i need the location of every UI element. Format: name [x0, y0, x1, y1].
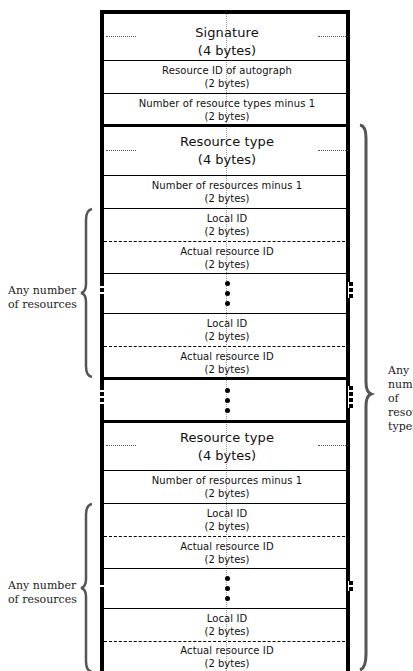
- field-label: Number of resource types minus 1: [139, 97, 315, 110]
- vertical-ellipsis-icon: [225, 388, 230, 413]
- resource-map-diagram: Signature (4 bytes) Resource ID of autog…: [0, 0, 413, 671]
- any-number-of-resource-types-label: Any number of resource types: [388, 364, 413, 434]
- right-brace-icon: [358, 124, 372, 671]
- field-size: (2 bytes): [205, 520, 250, 533]
- ellipsis-row: [104, 274, 350, 313]
- ellipsis-row: [104, 569, 350, 608]
- local-id-field: Local ID (2 bytes): [104, 609, 350, 641]
- break-mark-left: [99, 581, 105, 591]
- vertical-ellipsis-icon: [225, 576, 230, 601]
- word-boundary-tick-left: [106, 36, 136, 37]
- break-mark-right: [348, 581, 354, 591]
- break-mark-right: [348, 386, 354, 408]
- field-size: (2 bytes): [205, 110, 250, 123]
- field-label: Resource ID of autograph: [162, 64, 292, 77]
- word-boundary-tick-right: [318, 150, 348, 151]
- type-ellipsis-row: [104, 380, 350, 421]
- field-label: Actual resource ID: [180, 644, 273, 657]
- field-size: (4 bytes): [198, 151, 256, 169]
- field-size: (2 bytes): [205, 657, 250, 670]
- autograph-id-field: Resource ID of autograph (2 bytes): [104, 61, 350, 93]
- field-size: (2 bytes): [205, 77, 250, 90]
- left-brace-icon: [80, 208, 94, 378]
- field-label: Resource type: [180, 429, 274, 447]
- field-label: Local ID: [207, 612, 248, 625]
- actual-resource-id-field: Actual resource ID (2 bytes): [104, 242, 350, 273]
- any-number-of-resources-label: Any number of resources: [8, 579, 77, 607]
- break-mark-left: [99, 282, 105, 298]
- field-label: Number of resources minus 1: [152, 179, 302, 192]
- field-size: (2 bytes): [205, 625, 250, 638]
- field-size: (2 bytes): [205, 225, 250, 238]
- break-mark-right: [348, 282, 354, 298]
- resource-count-field: Number of resources minus 1 (2 bytes): [104, 471, 350, 503]
- field-size: (4 bytes): [198, 42, 256, 60]
- resource-type-field: Resource type (4 bytes): [104, 423, 350, 470]
- actual-resource-id-field: Actual resource ID (2 bytes): [104, 642, 350, 671]
- field-label: Actual resource ID: [180, 245, 273, 258]
- field-size: (2 bytes): [205, 330, 250, 343]
- vertical-ellipsis-icon: [225, 281, 230, 306]
- field-size: (4 bytes): [198, 447, 256, 465]
- local-id-field: Local ID (2 bytes): [104, 504, 350, 536]
- any-number-of-resources-label: Any number of resources: [8, 284, 77, 312]
- field-label: Local ID: [207, 212, 248, 225]
- left-brace-icon: [80, 503, 94, 671]
- field-label: Actual resource ID: [180, 350, 273, 363]
- resource-type-field: Resource type (4 bytes): [104, 127, 350, 175]
- local-id-field: Local ID (2 bytes): [104, 314, 350, 346]
- field-size: (2 bytes): [205, 192, 250, 205]
- field-size: (2 bytes): [205, 487, 250, 500]
- field-label: Resource type: [180, 133, 274, 151]
- field-size: (2 bytes): [205, 363, 250, 376]
- field-label: Local ID: [207, 507, 248, 520]
- field-size: (2 bytes): [205, 258, 250, 271]
- field-label: Local ID: [207, 317, 248, 330]
- word-boundary-tick-right: [318, 445, 348, 446]
- field-size: (2 bytes): [205, 553, 250, 566]
- actual-resource-id-field: Actual resource ID (2 bytes): [104, 347, 350, 378]
- field-label: Number of resources minus 1: [152, 474, 302, 487]
- field-label: Signature: [195, 24, 259, 42]
- break-mark-left: [99, 386, 105, 408]
- actual-resource-id-field: Actual resource ID (2 bytes): [104, 537, 350, 568]
- word-boundary-tick-right: [318, 36, 348, 37]
- local-id-field: Local ID (2 bytes): [104, 209, 350, 241]
- resource-count-field: Number of resources minus 1 (2 bytes): [104, 176, 350, 208]
- field-label: Actual resource ID: [180, 540, 273, 553]
- type-count-field: Number of resource types minus 1 (2 byte…: [104, 94, 350, 125]
- word-boundary-tick-left: [106, 445, 136, 446]
- word-boundary-tick-left: [106, 150, 136, 151]
